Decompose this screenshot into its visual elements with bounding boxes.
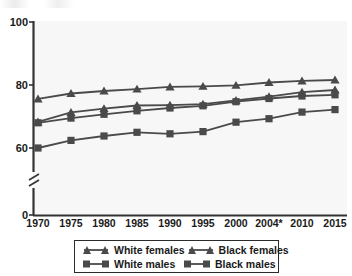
x-tick-label-1970: 1970 (26, 217, 50, 229)
x-tick-label-2015: 2015 (323, 217, 347, 229)
legend-marker-square-black-males (183, 258, 211, 270)
legend-marker-triangle-black-females (187, 244, 215, 256)
data-point-square (34, 144, 41, 151)
legend-entry-black-males: Black males (181, 257, 278, 271)
data-point-square (100, 132, 107, 139)
data-series-layer (33, 76, 339, 152)
x-tick-label-2010: 2010 (290, 217, 314, 229)
legend-row-1: White females Black females (75, 243, 278, 257)
series-black-females (33, 86, 339, 126)
axis-break-mark-top (29, 174, 39, 180)
data-point-square (34, 119, 41, 126)
chart-legend: White females Black females White males (74, 240, 279, 273)
data-point-square (133, 107, 140, 114)
data-point-square (199, 102, 206, 109)
data-point-square (331, 106, 338, 113)
legend-label-black-females: Black females (219, 244, 289, 256)
data-point-square (166, 130, 173, 137)
legend-label-white-females: White females (114, 244, 185, 256)
legend-row-2: White males Black males (75, 257, 278, 271)
series-line (38, 110, 335, 148)
data-point-square (265, 115, 272, 122)
data-point-square (166, 104, 173, 111)
x-tick-label-1975: 1975 (59, 217, 83, 229)
x-tick-label-1995: 1995 (191, 217, 215, 229)
legend-label-white-males: White males (114, 258, 175, 270)
y-tick-label-80: 80 (16, 79, 28, 91)
legend-entry-black-females: Black females (185, 243, 287, 257)
series-black-males (34, 106, 338, 152)
legend-entry-white-males: White males (75, 257, 181, 271)
legend-marker-square-white-males (82, 258, 110, 270)
data-point-square (298, 109, 305, 116)
x-tick-label-1980: 1980 (92, 217, 116, 229)
data-point-square (298, 92, 305, 99)
data-point-square (232, 119, 239, 126)
data-point-square (67, 115, 74, 122)
chart-figure: 100 80 60 0 1970197519801985199019952000… (0, 0, 352, 276)
data-point-square (331, 91, 338, 98)
series-line (38, 95, 335, 123)
data-point-square (265, 95, 272, 102)
data-point-square (232, 98, 239, 105)
x-tick-label-2004-star: 2004* (255, 217, 283, 229)
y-tick-label-60: 60 (16, 142, 28, 154)
legend-label-black-males: Black males (215, 258, 276, 270)
x-tick-label-layer: 19701975198019851990199520002004*2010201… (26, 217, 347, 229)
legend-marker-triangle-white-females (82, 244, 110, 256)
axis-break-mark-bottom (29, 180, 39, 186)
data-point-square (199, 128, 206, 135)
series-white-females (33, 76, 339, 103)
series-white-males (34, 91, 338, 126)
x-tick-label-2000: 2000 (224, 217, 248, 229)
x-tick-label-1985: 1985 (125, 217, 149, 229)
data-point-square (67, 137, 74, 144)
data-point-square (100, 111, 107, 118)
line-chart-svg: 100 80 60 0 1970197519801985199019952000… (0, 0, 352, 276)
x-tick-label-1990: 1990 (158, 217, 182, 229)
data-point-square (133, 129, 140, 136)
legend-entry-white-females: White females (75, 243, 185, 257)
y-tick-label-100: 100 (10, 16, 28, 28)
